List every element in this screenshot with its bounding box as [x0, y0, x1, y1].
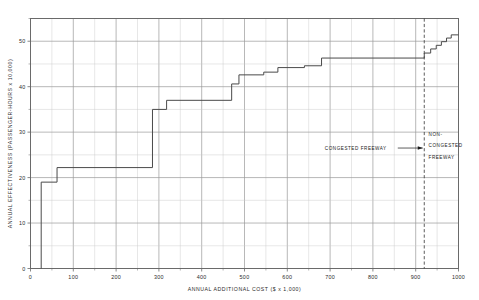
x-tick-label: 500 — [240, 274, 250, 280]
y-axis-title: ANNUAL EFFECTIVENESS (PASSENGER-HOURS x … — [7, 59, 13, 228]
chart-root: 0100200300400500600700800900100001020304… — [0, 0, 479, 300]
annotation-congested-freeway: CONGESTED FREEWAY — [325, 146, 387, 151]
x-tick-label: 200 — [111, 274, 121, 280]
x-tick-label: 400 — [197, 274, 207, 280]
annotation-non-congested-freeway-line1: NON- — [429, 132, 443, 137]
x-tick-label: 800 — [368, 274, 378, 280]
y-tick-label: 0 — [22, 266, 25, 272]
y-tick-label: 20 — [19, 175, 26, 181]
x-tick-label: 1000 — [452, 274, 465, 280]
x-tick-label: 900 — [411, 274, 421, 280]
annotation-non-congested-freeway-line2: CONGESTED — [429, 143, 463, 148]
x-tick-label: 300 — [154, 274, 164, 280]
x-tick-label: 700 — [325, 274, 335, 280]
x-axis-title: ANNUAL ADDITIONAL COST ($ x 1,000) — [188, 286, 302, 292]
y-tick-label: 30 — [19, 129, 26, 135]
y-tick-label: 50 — [19, 38, 26, 44]
annotation-non-congested-freeway-line3: FREEWAY — [429, 155, 455, 160]
y-tick-label: 40 — [19, 84, 26, 90]
x-tick-label: 600 — [282, 274, 292, 280]
x-tick-label: 100 — [68, 274, 78, 280]
cost-effectiveness-chart: 0100200300400500600700800900100001020304… — [0, 0, 479, 300]
y-tick-label: 10 — [19, 220, 26, 226]
x-tick-label: 0 — [29, 274, 32, 280]
